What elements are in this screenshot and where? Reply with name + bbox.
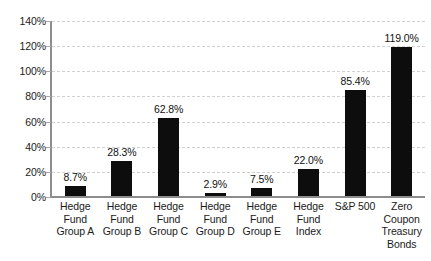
y-tick-label: 20%: [0, 167, 46, 177]
plot-area: 8.7%28.3%62.8%2.9%7.5%22.0%85.4%119.0%: [52, 21, 425, 197]
x-axis-category-label-line: Hedge: [236, 200, 289, 213]
bar-value-label: 62.8%: [145, 104, 192, 115]
x-axis-category-label-line: Treasury: [375, 225, 428, 238]
x-axis-category-label-line: Fund: [282, 213, 335, 226]
y-tick-label: 60%: [0, 117, 46, 127]
bar: [158, 118, 179, 197]
y-axis: 140%120%100%80%60%40%20%0%: [0, 0, 46, 261]
bar-value-label: 28.3%: [99, 147, 146, 158]
x-axis-line: [50, 196, 425, 198]
y-tick-mark: [46, 172, 51, 173]
bar-value-label: 7.5%: [239, 174, 286, 185]
x-axis-category-label-line: Fund: [49, 213, 102, 226]
y-tick-mark: [46, 147, 51, 148]
x-axis-category-label-line: Group C: [142, 225, 195, 238]
bar: [391, 47, 412, 197]
y-tick-mark: [46, 122, 51, 123]
x-axis-category-label-line: Fund: [236, 213, 289, 226]
gridline: [52, 122, 425, 123]
x-axis-labels: HedgeFundGroup AHedgeFundGroup BHedgeFun…: [52, 200, 425, 258]
x-axis-category-label-line: Hedge: [189, 200, 242, 213]
x-axis-category-label-line: Group B: [96, 225, 149, 238]
bar: [298, 169, 319, 197]
bar-value-label: 119.0%: [378, 33, 425, 44]
x-axis-category-label-line: Hedge: [282, 200, 335, 213]
y-tick-label: 100%: [0, 66, 46, 76]
x-axis-category-label-line: Hedge: [96, 200, 149, 213]
x-axis-category-label-line: Hedge: [49, 200, 102, 213]
y-tick-mark: [46, 197, 51, 198]
x-axis-category-label-line: Group D: [189, 225, 242, 238]
x-axis-category-label: HedgeFundIndex: [282, 200, 335, 238]
x-axis-category-label: HedgeFundGroup D: [189, 200, 242, 238]
x-axis-category-label-line: S&P 500: [329, 200, 382, 213]
x-axis-category-label-line: Fund: [96, 213, 149, 226]
x-axis-category-label: HedgeFundGroup A: [49, 200, 102, 238]
x-axis-category-label: HedgeFundGroup E: [236, 200, 289, 238]
bar-value-label: 2.9%: [192, 179, 239, 190]
bar-value-label: 22.0%: [285, 155, 332, 166]
x-axis-category-label-line: Coupon: [375, 213, 428, 226]
x-axis-category-label-line: Fund: [189, 213, 242, 226]
x-axis-category-label-line: Group E: [236, 225, 289, 238]
x-axis-category-label-line: Bonds: [375, 238, 428, 251]
x-axis-category-label: ZeroCouponTreasuryBonds: [375, 200, 428, 250]
bar-value-label: 85.4%: [332, 76, 379, 87]
x-axis-category-label: S&P 500: [329, 200, 382, 213]
x-axis-category-label-line: Index: [282, 225, 335, 238]
gridline: [52, 96, 425, 97]
x-axis-category-label-line: Fund: [142, 213, 195, 226]
y-tick-label: 40%: [0, 142, 46, 152]
y-tick-mark: [46, 46, 51, 47]
gridline: [52, 71, 425, 72]
bar: [111, 161, 132, 197]
gridline: [52, 46, 425, 47]
y-tick-label: 0%: [0, 192, 46, 202]
y-tick-mark: [46, 96, 51, 97]
bar: [345, 90, 366, 197]
x-axis-category-label: HedgeFundGroup B: [96, 200, 149, 238]
x-axis-category-label-line: Hedge: [142, 200, 195, 213]
y-tick-label: 120%: [0, 41, 46, 51]
gridline: [52, 21, 425, 22]
x-axis-category-label-line: Group A: [49, 225, 102, 238]
bar-value-label: 8.7%: [52, 172, 99, 183]
y-tick-mark: [46, 71, 51, 72]
y-tick-mark: [46, 21, 51, 22]
x-axis-category-label: HedgeFundGroup C: [142, 200, 195, 238]
bar-chart: 140%120%100%80%60%40%20%0% 8.7%28.3%62.8…: [0, 0, 431, 261]
x-axis-category-label-line: Zero: [375, 200, 428, 213]
y-tick-label: 80%: [0, 91, 46, 101]
y-tick-label: 140%: [0, 16, 46, 26]
